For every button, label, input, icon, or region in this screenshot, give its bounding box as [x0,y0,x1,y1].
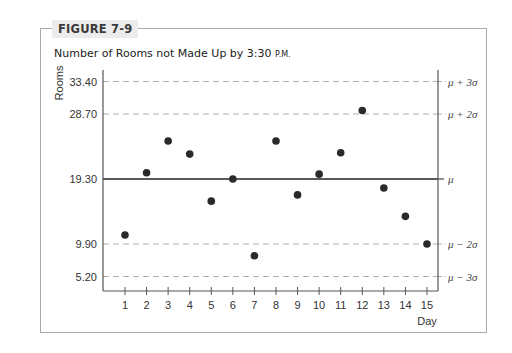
control-line-label: μ + 2σ [447,108,478,120]
x-tick-label: 7 [251,299,257,311]
x-tick-label: 15 [421,299,433,311]
axes [103,70,438,291]
control-line-label: μ − 2σ [447,238,478,250]
x-tick-label: 1 [122,299,128,311]
data-point [164,137,172,145]
control-line-label: μ + 3σ [447,76,478,88]
data-point [380,184,388,192]
data-point [294,191,302,199]
x-tick-label: 11 [335,299,346,311]
y-tick-label: 5.20 [76,271,97,283]
x-tick-label: 13 [378,299,390,311]
y-tick-label: 9.90 [76,238,97,250]
data-point [186,150,194,158]
data-point [423,240,431,248]
x-tick-label: 9 [294,299,300,311]
x-tick-label: 5 [208,299,214,311]
x-axis-label: Day [417,315,437,327]
control-lines [103,82,446,277]
data-point [121,231,129,239]
x-tick-label: 4 [187,299,193,311]
y-tick-label: 28.70 [69,108,97,120]
chart-plot: 33.4028.7019.309.905.20 μ + 3σμ + 2σμμ −… [0,0,512,353]
x-tick-label: 8 [273,299,279,311]
data-point [358,107,366,115]
data-point [229,175,237,183]
data-points [121,107,431,260]
y-tick-label: 19.30 [69,173,97,185]
x-tick-label: 3 [165,299,171,311]
x-tick-label: 2 [144,299,150,311]
y-axis-label: Rooms [53,65,65,100]
data-point [337,149,345,157]
y-tick-labels: 33.4028.7019.309.905.20 [69,76,97,283]
data-point [251,252,259,260]
x-tick-label: 10 [313,299,325,311]
control-line-label: μ [447,173,454,185]
data-point [143,169,151,177]
y-tick-label: 33.40 [69,76,97,88]
data-point [207,197,215,205]
control-line-labels: μ + 3σμ + 2σμμ − 2σμ − 3σ [447,76,478,283]
x-tick-label: 14 [399,299,411,311]
x-tick-label: 12 [356,299,368,311]
x-tick-label: 6 [230,299,236,311]
control-line-label: μ − 3σ [447,271,478,283]
data-point [402,213,410,221]
data-point [272,137,280,145]
data-point [315,170,323,178]
